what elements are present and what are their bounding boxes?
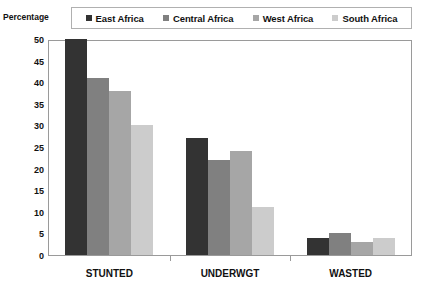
bar[interactable] [87, 78, 109, 255]
plot-area [48, 40, 412, 256]
x-axis-category-label: STUNTED [86, 268, 133, 279]
legend-item[interactable]: West Africa [253, 13, 314, 24]
bar[interactable] [65, 39, 87, 255]
bar-group [49, 41, 170, 255]
y-axis-tick-label: 10 [0, 208, 44, 218]
legend-swatch-icon [332, 15, 338, 21]
y-axis-tick-label: 40 [0, 78, 44, 88]
bars-container [49, 41, 411, 255]
legend-label: Central Africa [173, 13, 234, 24]
x-axis-category-label: WASTED [329, 268, 372, 279]
bar[interactable] [329, 233, 351, 255]
bar[interactable] [307, 238, 329, 255]
y-axis-tick-label: 25 [0, 143, 44, 153]
y-axis-tick-label: 35 [0, 100, 44, 110]
y-axis-tick-label: 5 [0, 229, 44, 239]
legend-item[interactable]: South Africa [332, 13, 397, 24]
bar-group [290, 41, 411, 255]
legend-swatch-icon [253, 15, 259, 21]
y-axis-tick-label: 45 [0, 57, 44, 67]
y-axis-tick-label: 0 [0, 251, 44, 261]
x-axis-tick-mark [290, 255, 291, 261]
x-axis-tick-mark [170, 255, 171, 261]
bar[interactable] [208, 160, 230, 255]
legend-item[interactable]: Central Africa [163, 13, 234, 24]
chart-screenshot: Percentage East AfricaCentral AfricaWest… [0, 0, 434, 293]
legend-label: West Africa [263, 13, 314, 24]
y-axis-tick-label: 30 [0, 121, 44, 131]
bar[interactable] [186, 138, 208, 255]
y-axis-tick-label: 50 [0, 35, 44, 45]
bar[interactable] [230, 151, 252, 255]
legend-swatch-icon [163, 15, 169, 21]
bar[interactable] [131, 125, 153, 255]
x-axis-category-label: UNDERWGT [201, 268, 260, 279]
y-axis-title: Percentage [3, 12, 49, 22]
y-axis-tick-labels: 50454035302520151050 [0, 40, 44, 256]
legend-label: South Africa [342, 13, 397, 24]
bar[interactable] [252, 207, 274, 255]
legend-item[interactable]: East Africa [86, 13, 144, 24]
bar[interactable] [373, 238, 395, 255]
y-axis-tick-label: 15 [0, 186, 44, 196]
bar[interactable] [109, 91, 131, 255]
legend-label: East Africa [96, 13, 144, 24]
bar-group [170, 41, 291, 255]
y-axis-tick-label: 20 [0, 165, 44, 175]
legend-swatch-icon [86, 15, 92, 21]
chart-legend: East AfricaCentral AfricaWest AfricaSout… [71, 7, 412, 29]
bar[interactable] [351, 242, 373, 255]
